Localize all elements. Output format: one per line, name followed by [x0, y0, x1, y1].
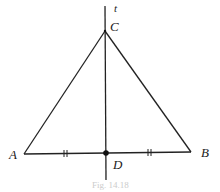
segment-bc	[105, 31, 191, 152]
figure-caption: Fig. 14.18	[92, 180, 129, 190]
label-t: t	[114, 3, 117, 14]
segment-ac	[24, 31, 105, 154]
point-d	[103, 150, 109, 156]
label-b: B	[201, 146, 209, 159]
point-c	[104, 30, 106, 32]
label-c: C	[110, 20, 119, 33]
label-a: A	[9, 148, 17, 161]
label-d: D	[113, 158, 122, 171]
